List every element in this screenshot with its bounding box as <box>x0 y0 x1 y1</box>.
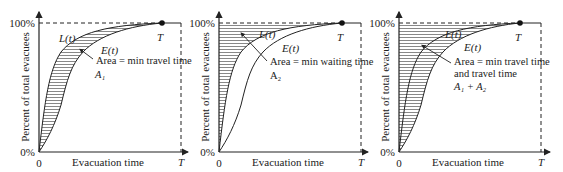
x-end-tick: T <box>358 156 365 168</box>
end-point-label: T <box>337 31 344 43</box>
panel-3: 100% 0% 0 T Evacuation time Percent of t… <box>369 12 550 169</box>
y-bottom-tick: 0% <box>20 146 35 158</box>
annotation-line-2: and travel time <box>454 68 517 79</box>
x-axis-label: Evacuation time <box>432 156 504 168</box>
y-top-tick: 100% <box>369 17 395 29</box>
hatched-area-a2 <box>219 23 342 152</box>
evacuation-curves-figure: 100% 0% 0 T Evacuation time Percent of t… <box>0 0 563 172</box>
x-end-tick: T <box>178 156 185 168</box>
end-point-label: T <box>157 31 164 43</box>
area-label: A₂ <box>270 70 282 81</box>
x-origin-tick: 0 <box>36 157 42 169</box>
curve-e-label: E(t) <box>281 42 299 55</box>
y-bottom-tick: 0% <box>380 146 395 158</box>
end-point-dot <box>159 20 165 26</box>
end-point-dot <box>339 20 345 26</box>
y-axis-label: Percent of total evacuees <box>199 32 211 142</box>
annotation-line-1: Area = min waiting time <box>270 56 374 67</box>
panel-2: 100% 0% 0 T Evacuation time Percent of t… <box>189 12 373 169</box>
x-axis-label: Evacuation time <box>252 156 324 168</box>
area-label: A₁ + A₂ <box>453 81 487 92</box>
annotation-pointer <box>81 50 93 59</box>
y-top-tick: 100% <box>9 17 35 29</box>
panel-1: 100% 0% 0 T Evacuation time Percent of t… <box>9 12 192 169</box>
end-point-label: T <box>515 31 522 43</box>
x-origin-tick: 0 <box>396 157 402 169</box>
curve-l-label: L(t) <box>58 32 76 45</box>
curve-e-label: E(t) <box>463 41 481 54</box>
y-bottom-tick: 0% <box>200 146 215 158</box>
x-axis-label: Evacuation time <box>72 156 144 168</box>
end-point-dot <box>517 20 523 26</box>
curve-l-label: L(t) <box>258 28 276 41</box>
area-label: A₁ <box>94 69 105 80</box>
y-axis-label: Percent of total evacuees <box>379 32 391 142</box>
hatched-area-a1 <box>39 23 162 152</box>
annotation-line-1: Area = min travel time <box>96 55 192 66</box>
y-axis-label: Percent of total evacuees <box>19 32 31 142</box>
y-top-tick: 100% <box>189 17 215 29</box>
annotation-line-1: Area = min travel time <box>454 56 550 67</box>
x-end-tick: T <box>538 156 545 168</box>
x-origin-tick: 0 <box>216 157 222 169</box>
curve-l-label: L(t) <box>444 28 462 41</box>
